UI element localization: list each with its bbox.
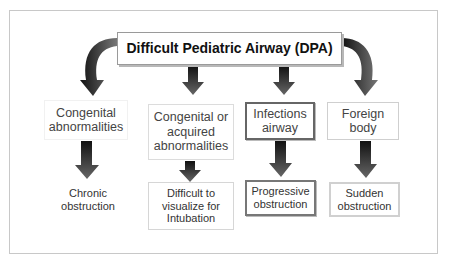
node-text: acquired	[167, 125, 215, 139]
node-congenital: Congenitalabnormalities	[44, 100, 128, 140]
node-text: Congenital	[56, 106, 116, 120]
node-progressive-obstruction: Progressiveobstruction	[245, 180, 316, 216]
node-sudden-obstruction: Suddenobstruction	[329, 182, 400, 217]
node-text: Progressive	[251, 185, 309, 197]
arrow-down-icon	[354, 141, 377, 178]
node-text: Difficult to	[167, 187, 215, 199]
node-chronic-obstruction: Chronicobstruction	[53, 181, 123, 218]
node-text: Foreign	[342, 107, 384, 121]
arrow-down-icon	[179, 161, 201, 182]
arrow-down-icon	[182, 66, 204, 95]
node-text: obstruction	[61, 200, 115, 212]
node-text: visualize for	[162, 200, 220, 212]
node-text: abnormalities	[49, 120, 123, 134]
curved-arrow-left-icon	[80, 38, 117, 96]
arrow-down-icon	[269, 141, 292, 177]
arrow-down-icon	[75, 141, 99, 179]
root-node: Difficult Pediatric Airway (DPA)	[117, 32, 342, 65]
node-congenital-or-acquired: Congenital oracquiredabnormalities	[148, 104, 234, 160]
node-text: obstruction	[254, 198, 308, 210]
node-text: Congenital or	[154, 110, 228, 124]
node-text: abnormalities	[154, 139, 228, 153]
node-text: obstruction	[338, 200, 392, 212]
node-text: airway	[262, 121, 298, 135]
node-text: body	[349, 121, 376, 135]
node-foreign-body: Foreignbody	[327, 102, 399, 140]
node-text: Sudden	[346, 187, 384, 199]
curved-arrow-right-icon	[342, 38, 378, 96]
node-infections: Infectionsairway	[245, 102, 315, 140]
root-title: Difficult Pediatric Airway (DPA)	[126, 40, 332, 56]
arrow-down-icon	[273, 66, 295, 95]
node-text: Infections	[253, 107, 307, 121]
node-text: Chronic	[69, 187, 107, 199]
node-text: Intubation	[167, 212, 215, 224]
node-difficult-visualize: Difficult tovisualize forIntubation	[148, 182, 234, 230]
